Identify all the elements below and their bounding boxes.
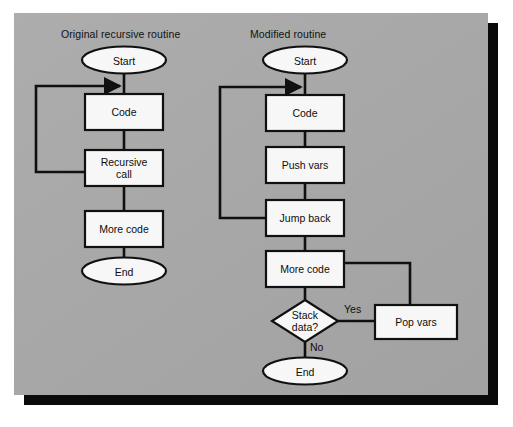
node-orig-code	[85, 94, 163, 130]
node-mod-more-code	[266, 251, 344, 287]
edge-label-no: No	[310, 341, 323, 353]
node-mod-start	[263, 47, 347, 74]
node-mod-stack-data-decision	[272, 300, 338, 342]
node-orig-more-code	[85, 211, 163, 247]
node-mod-pop-vars	[375, 305, 457, 339]
edge-label-yes: Yes	[344, 303, 361, 315]
node-mod-push-vars	[266, 147, 344, 183]
node-mod-jump-back	[266, 200, 344, 236]
node-mod-end	[263, 358, 347, 385]
node-orig-start	[82, 47, 166, 74]
node-mod-code	[266, 95, 344, 131]
edge-mod-morecode-to-popvars	[344, 263, 410, 305]
node-orig-recursive-call	[85, 150, 163, 186]
flowchart-graphics	[0, 0, 513, 427]
node-orig-end	[82, 258, 166, 285]
flowchart-figure: Original recursive routine Modified rout…	[0, 0, 513, 427]
modified-nodes	[263, 47, 457, 385]
